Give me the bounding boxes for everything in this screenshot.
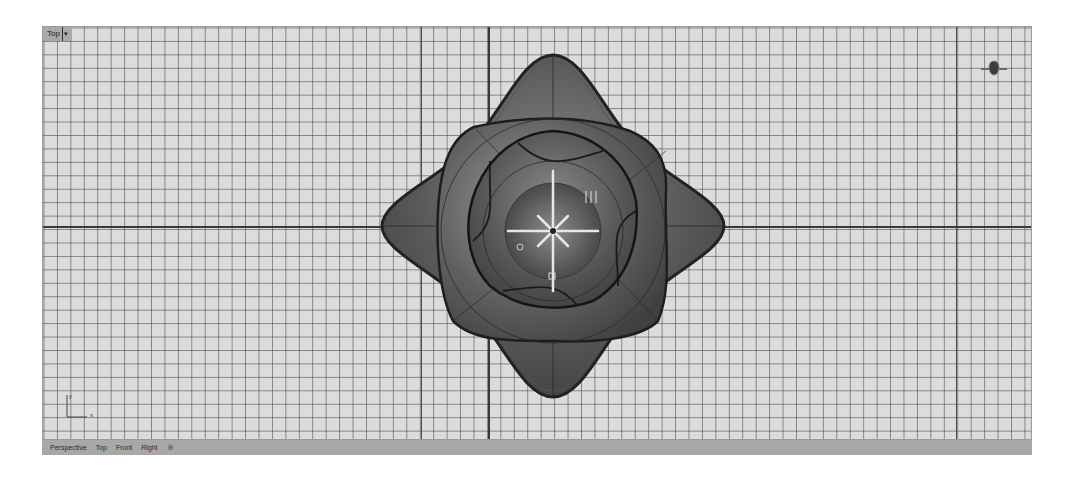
tab-perspective[interactable]: Perspective: [50, 444, 87, 451]
tab-right[interactable]: Right: [141, 444, 157, 451]
chevron-down-icon[interactable]: ▾: [62, 27, 68, 41]
y-axis-label: y: [69, 393, 72, 399]
tab-front[interactable]: Front: [116, 444, 132, 451]
x-axis-label: x: [90, 412, 93, 418]
navigation-gizmo-icon[interactable]: [979, 58, 1009, 80]
viewport-title-menu[interactable]: Top ▾: [43, 27, 72, 41]
flower-model[interactable]: [378, 51, 728, 401]
viewport-tabs: Perspective Top Front Right ⊕: [42, 440, 1032, 455]
viewport-title: Top: [47, 27, 60, 41]
add-viewport-icon[interactable]: ⊕: [167, 443, 174, 452]
top-viewport[interactable]: Top ▾: [42, 26, 1032, 440]
tab-top[interactable]: Top: [96, 444, 107, 451]
world-axes-icon: y x: [63, 393, 103, 423]
grid-major-line: [956, 27, 957, 439]
